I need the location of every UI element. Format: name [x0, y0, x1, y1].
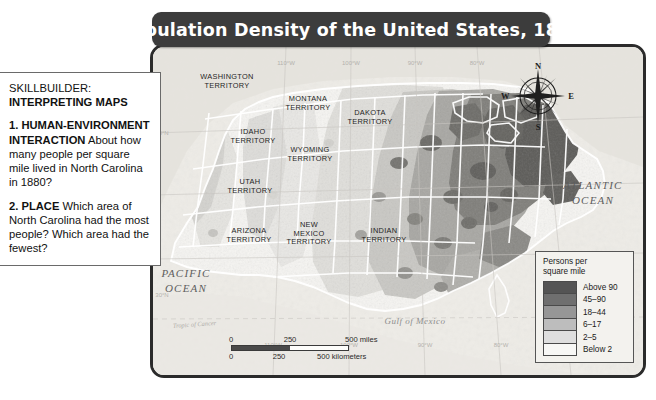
gulf-of-mexico-label: Gulf of Mexico: [385, 316, 446, 326]
legend-title-line2: square mile: [543, 267, 627, 277]
legend-swatch: [543, 306, 577, 319]
page-title: Population Density of the United States,…: [119, 20, 583, 40]
question-2-label: 2. PLACE: [9, 200, 59, 212]
scale-km-250: 250: [273, 352, 286, 361]
legend-row: 18–44: [543, 306, 627, 319]
legend-label: Below 2: [583, 345, 612, 354]
legend-label: 2–5: [583, 333, 597, 342]
skillbuilder-heading-bold: INTERPRETING MAPS: [9, 96, 128, 108]
territory-label-arizona-territory: ARIZONATERRITORY: [226, 226, 271, 244]
legend-entries: Above 9045–9018–446–172–5Below 2: [543, 281, 627, 356]
graticule-label: 90°W: [408, 60, 423, 66]
compass-west-label: W: [501, 91, 510, 101]
map-title-banner: Population Density of the United States,…: [152, 12, 550, 47]
legend-swatch: [543, 331, 577, 344]
scale-miles-0: 0: [229, 335, 233, 344]
territory-label-line: TERRITORY: [285, 103, 330, 112]
compass-rose: N E S W: [505, 63, 571, 129]
graticule-label: 90°W: [418, 342, 433, 348]
legend-label: 6–17: [583, 320, 601, 329]
legend-swatch: [543, 294, 577, 307]
legend-label: 18–44: [583, 308, 606, 317]
ocean-label-line: OCEAN: [572, 194, 614, 206]
territory-label-line: TERRITORY: [226, 235, 271, 244]
legend-row: 45–90: [543, 294, 627, 307]
skillbuilder-question-2: 2. PLACE Which area of North Carolina ha…: [9, 199, 151, 256]
skillbuilder-heading: SKILLBUILDER: INTERPRETING MAPS: [9, 81, 151, 109]
graticule-label: 100°W: [342, 60, 360, 66]
territory-label-wyoming-territory: WYOMINGTERRITORY: [287, 145, 332, 163]
skillbuilder-heading-label: SKILLBUILDER:: [9, 82, 91, 94]
compass-north-label: N: [535, 61, 541, 71]
scale-segment-dark: [232, 346, 290, 350]
legend-title-line1: Persons per: [543, 257, 627, 267]
scale-km-0: 0: [229, 352, 233, 361]
territory-label-line: TERRITORY: [361, 235, 406, 244]
scale-segment-light: [290, 346, 348, 350]
scale-km-labels: 0 250 500 kilometers: [231, 352, 371, 361]
graticule-label: 30°N: [155, 292, 168, 298]
legend-title: Persons per square mile: [543, 257, 627, 277]
legend-label: Above 90: [583, 283, 618, 292]
ocean-label-line: ATLANTIC: [562, 179, 622, 191]
scale-miles-500: 500 miles: [345, 335, 378, 344]
legend-row: Below 2: [543, 344, 627, 357]
map-frame: WASHINGTONTERRITORYMONTANATERRITORYDAKOT…: [150, 44, 646, 378]
territory-label-montana-territory: MONTANATERRITORY: [285, 94, 330, 112]
territory-label-line: TERRITORY: [227, 186, 272, 195]
legend-swatch: [543, 319, 577, 332]
territory-label-washington-territory: WASHINGTONTERRITORY: [200, 72, 254, 90]
territory-label-line: TERRITORY: [286, 237, 331, 246]
scale-km-500: 500 kilometers: [317, 352, 366, 361]
map-legend: Persons per square mile Above 9045–9018–…: [535, 251, 634, 363]
territory-label-line: TERRITORY: [347, 117, 392, 126]
graticule-label: 80°W: [470, 60, 485, 66]
legend-swatch: [543, 344, 577, 357]
compass-south-label: S: [536, 122, 541, 132]
territory-label-line: TERRITORY: [287, 154, 332, 163]
compass-east-label: E: [568, 91, 574, 101]
scale-bar-graphic: [231, 345, 349, 351]
skillbuilder-box: SKILLBUILDER: INTERPRETING MAPS 1. HUMAN…: [0, 72, 161, 266]
legend-row: Above 90: [543, 281, 627, 294]
ocean-label-line: PACIFIC: [160, 267, 210, 279]
ocean-label-line: OCEAN: [165, 282, 207, 294]
legend-label: 45–90: [583, 295, 606, 304]
scale-bar: 0 250 500 miles 0 250 500 kilometers: [231, 335, 371, 361]
graticule-label: 80°W: [494, 342, 509, 348]
legend-row: 2–5: [543, 331, 627, 344]
legend-row: 6–17: [543, 319, 627, 332]
territory-label-line: TERRITORY: [230, 136, 275, 145]
skillbuilder-question-1: 1. HUMAN-ENVIRONMENT INTERACTION About h…: [9, 118, 151, 189]
legend-swatch: [543, 281, 577, 294]
territory-label-line: TERRITORY: [204, 81, 249, 90]
territory-label-dakota-territory: DAKOTATERRITORY: [347, 108, 392, 126]
scale-miles-labels: 0 250 500 miles: [231, 335, 371, 344]
scale-miles-250: 250: [284, 335, 297, 344]
compass-rose-graphic: [505, 63, 571, 129]
graticule-label: 110°W: [277, 60, 295, 66]
